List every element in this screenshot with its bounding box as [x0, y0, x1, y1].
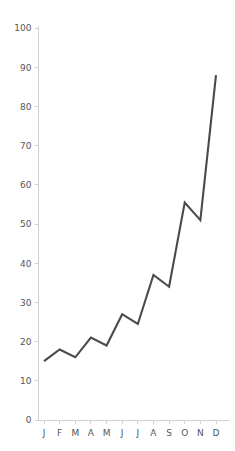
x-axis-tick-label: O	[181, 428, 188, 438]
x-axis-tick-label: S	[166, 428, 172, 438]
x-axis-tick-label: D	[213, 428, 220, 438]
y-axis-tick-label: 70	[20, 141, 32, 151]
y-axis-tick-label: 0	[26, 415, 32, 425]
x-axis-tick-label: M	[71, 428, 79, 438]
y-axis-tick-label: 50	[20, 219, 32, 229]
y-axis-tick-label: 30	[20, 298, 32, 308]
y-axis-tick-label: 100	[14, 23, 31, 33]
y-axis-tick-label: 20	[20, 337, 32, 347]
x-axis-tick-label: M	[103, 428, 111, 438]
x-axis-tick-label: N	[197, 428, 204, 438]
y-axis-tick-label: 10	[20, 376, 32, 386]
x-axis-tick-label: A	[150, 428, 157, 438]
x-axis-tick-label: A	[88, 428, 95, 438]
y-axis-tick-label: 80	[20, 102, 32, 112]
x-axis-tick-label: F	[57, 428, 62, 438]
y-axis-tick-label: 90	[20, 63, 32, 73]
x-axis-tick-label: J	[42, 428, 46, 438]
line-chart: 0102030405060708090100 JFMAMJJASOND	[0, 0, 235, 451]
y-axis-tick-label: 60	[20, 180, 32, 190]
y-axis-tick-label: 40	[20, 259, 32, 269]
x-axis-tick-label: J	[135, 428, 139, 438]
chart-canvas: 0102030405060708090100 JFMAMJJASOND	[0, 0, 235, 451]
x-axis-tick-label: J	[120, 428, 124, 438]
